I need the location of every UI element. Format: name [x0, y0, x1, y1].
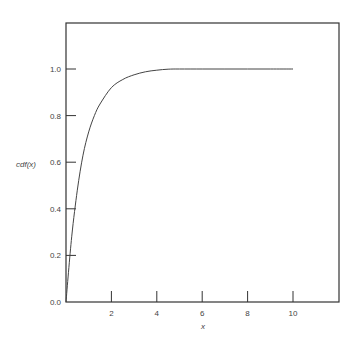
x-tick-label: 8 — [245, 309, 250, 318]
y-tick-label: 0.2 — [50, 251, 62, 260]
cdf-chart: 0.00.20.40.60.81.0 246810 cdf(x) x — [0, 0, 354, 344]
y-axis-ticks: 0.00.20.40.60.81.0 — [50, 65, 76, 307]
y-tick-label: 0.6 — [50, 158, 62, 167]
y-axis-label: cdf(x) — [16, 160, 36, 169]
x-tick-label: 6 — [200, 309, 205, 318]
x-axis-ticks: 246810 — [109, 291, 298, 318]
x-tick-label: 2 — [109, 309, 114, 318]
plot-frame — [66, 23, 339, 302]
y-tick-label: 0.4 — [50, 205, 62, 214]
x-tick-label: 10 — [289, 309, 298, 318]
y-tick-label: 0.0 — [50, 298, 62, 307]
x-tick-label: 4 — [155, 309, 160, 318]
cdf-curve — [66, 69, 293, 302]
x-axis-label: x — [200, 322, 206, 331]
y-tick-label: 0.8 — [50, 112, 62, 121]
y-tick-label: 1.0 — [50, 65, 62, 74]
